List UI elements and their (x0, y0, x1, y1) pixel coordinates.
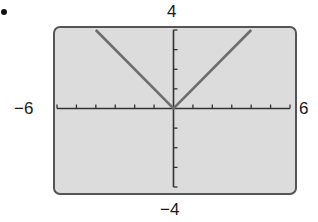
y-min-label: −4 (160, 201, 179, 218)
x-max-label: 6 (299, 100, 308, 117)
y-max-label: 4 (167, 3, 176, 20)
x-min-label: −6 (14, 100, 33, 117)
graph-plot (0, 0, 318, 222)
